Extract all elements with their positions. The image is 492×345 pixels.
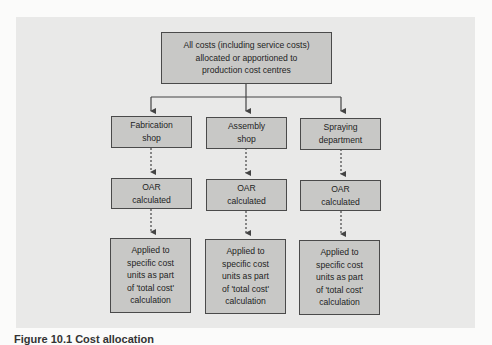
applied-box-spraying: Applied to specific cost units as part o… (299, 240, 380, 315)
applied-label: Applied to specific cost units as part o… (222, 245, 269, 308)
spraying-department-label: Spraying department (319, 121, 362, 146)
fabrication-shop-label: Fabrication shop (130, 119, 173, 144)
applied-box-fabrication: Applied to specific cost units as part o… (110, 238, 191, 313)
fabrication-shop-box: Fabrication shop (111, 116, 192, 148)
applied-label: Applied to specific cost units as part o… (316, 246, 363, 309)
all-costs-box: All costs (including service costs) allo… (161, 32, 332, 84)
all-costs-label: All costs (including service costs) allo… (183, 39, 309, 77)
spraying-department-box: Spraying department (300, 118, 381, 150)
applied-box-assembly: Applied to specific cost units as part o… (205, 239, 286, 314)
oar-box-assembly: OAR calculated (206, 179, 287, 211)
oar-box-spraying: OAR calculated (300, 180, 381, 211)
figure-caption: Figure 10.1 Cost allocation (14, 333, 154, 345)
oar-label: OAR calculated (321, 183, 360, 208)
oar-box-fabrication: OAR calculated (111, 178, 192, 209)
assembly-shop-box: Assembly shop (206, 117, 287, 149)
applied-label: Applied to specific cost units as part o… (127, 244, 174, 307)
assembly-shop-label: Assembly shop (228, 120, 265, 145)
oar-label: OAR calculated (132, 181, 171, 206)
oar-label: OAR calculated (227, 182, 266, 207)
